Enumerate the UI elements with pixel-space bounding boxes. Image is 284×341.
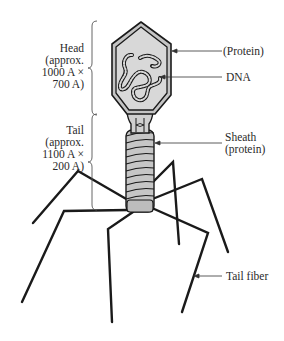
- tail-sheath: [126, 130, 154, 212]
- tail-label-line-1: Tail: [20, 124, 84, 136]
- tail-label-line-3: 1100 A ×: [20, 148, 84, 160]
- tail-label-line-2: (approx.: [20, 136, 84, 148]
- head-label-line-3: 1000 A ×: [20, 66, 84, 78]
- protein-label: (Protein): [223, 45, 264, 57]
- head-label-line-4: 700 A): [20, 78, 84, 90]
- head-label-line-2: (approx.: [20, 54, 84, 66]
- tail-label: Tail (approx. 1100 A × 200 A): [20, 124, 84, 172]
- tail-fiber-label: Tail fiber: [226, 270, 268, 282]
- tail-brace: [88, 114, 97, 210]
- sheath-label-line-1: Sheath: [225, 131, 265, 143]
- head-brace: [88, 21, 97, 115]
- sheath-label-line-2: (protein): [225, 143, 265, 155]
- head-label: Head (approx. 1000 A × 700 A): [20, 42, 84, 90]
- sheath-label: Sheath (protein): [225, 131, 265, 155]
- head-label-line-1: Head: [20, 42, 84, 54]
- tail-label-line-4: 200 A): [20, 160, 84, 172]
- dna-label: DNA: [226, 71, 251, 83]
- tail-fibers: [22, 162, 228, 322]
- collar: [127, 112, 153, 133]
- phage-diagram: Head (approx. 1000 A × 700 A) Tail (appr…: [0, 0, 284, 341]
